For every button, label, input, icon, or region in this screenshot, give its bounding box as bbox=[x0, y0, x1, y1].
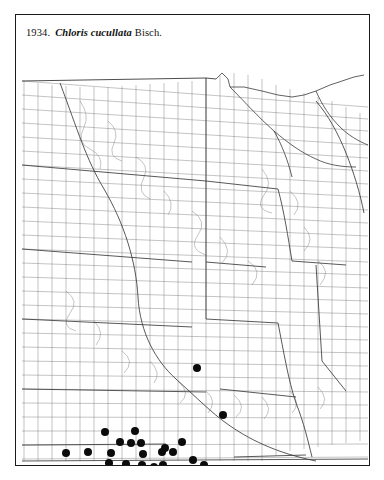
southern-edge bbox=[22, 459, 368, 461]
map-plate-page: 1934.Chloris cucullataBisch. bbox=[0, 0, 384, 480]
northern-border bbox=[22, 78, 216, 81]
species-name: Chloris cucullata bbox=[50, 27, 132, 38]
plate-caption: 1934.Chloris cucullataBisch. bbox=[26, 27, 162, 38]
great-lakes-shoreline bbox=[216, 73, 368, 177]
state-boundaries bbox=[22, 78, 364, 461]
plate-number: 1934. bbox=[26, 27, 50, 38]
plate-frame: 1934.Chloris cucullataBisch. bbox=[15, 14, 370, 466]
distribution-map bbox=[16, 61, 370, 466]
species-authority: Bisch. bbox=[132, 27, 162, 38]
irregular-county-lines bbox=[66, 101, 326, 419]
map-base-layer bbox=[16, 61, 370, 466]
